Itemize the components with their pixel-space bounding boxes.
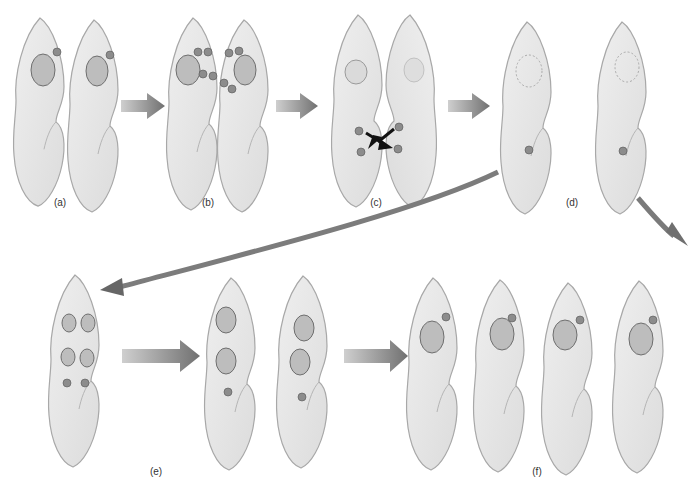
arrow-to-e-head <box>100 278 124 296</box>
degenerating-macronucleus <box>404 58 424 82</box>
stage-label-d: (d) <box>566 197 578 208</box>
arrow-e-mid <box>122 340 200 372</box>
arrow-c-to-d <box>448 93 490 119</box>
arrow-b-to-c <box>276 93 318 119</box>
degenerating-macronucleus <box>345 60 367 84</box>
macronucleus <box>234 55 256 85</box>
stage-a <box>13 18 118 212</box>
stage-f <box>406 278 663 475</box>
stage-label-c: (c) <box>370 197 382 208</box>
arrow-a-to-b <box>121 93 165 119</box>
stage-d <box>500 22 646 214</box>
micronucleus <box>53 48 61 56</box>
micronucleus <box>106 51 114 59</box>
stage-e <box>48 275 327 470</box>
macronucleus <box>86 56 108 86</box>
stage-c <box>331 15 436 207</box>
diagram-canvas <box>0 0 696 495</box>
macronucleus <box>31 54 55 86</box>
stage-label-e: (e) <box>150 466 162 477</box>
paramecium-a-right <box>67 20 118 212</box>
stage-b <box>166 18 268 212</box>
paramecium-a-left <box>13 18 64 206</box>
arrow-e-to-f <box>344 340 408 372</box>
stage-label-a: (a) <box>54 197 66 208</box>
stage-label-b: (b) <box>202 197 214 208</box>
macronucleus <box>176 55 200 85</box>
conjugation-diagram: (a) (b) (c) (d) (e) (f) <box>0 0 696 495</box>
stage-label-f: (f) <box>532 466 541 477</box>
